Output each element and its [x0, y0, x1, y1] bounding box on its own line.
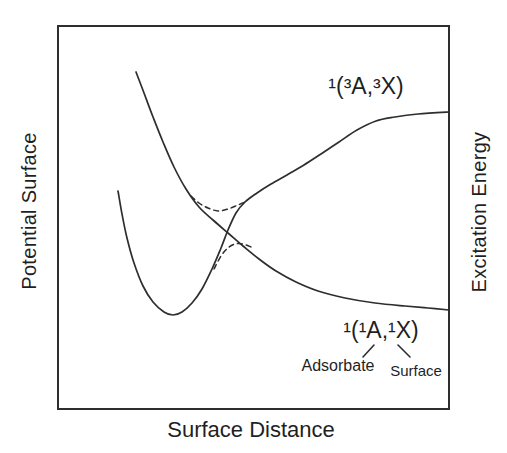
- curve-singlet-state: [136, 72, 449, 310]
- x-axis-label: Surface Distance: [167, 419, 335, 441]
- y-axis-label-left: Potential Surface: [19, 132, 39, 289]
- lower-state-annotation: ¹(¹A,¹X): [343, 319, 418, 342]
- surface-annotation: Surface: [390, 363, 442, 378]
- adsorbate-annotation: Adsorbate: [302, 358, 375, 374]
- y-axis-label-right: Excitation Energy: [469, 132, 489, 293]
- figure-canvas: [0, 0, 507, 453]
- upper-state-annotation: ¹(³A,³X): [328, 75, 403, 98]
- curve-triplet-state: [118, 112, 449, 315]
- adsorbate-pointer-line: [363, 345, 374, 357]
- surface-pointer-line: [398, 345, 410, 357]
